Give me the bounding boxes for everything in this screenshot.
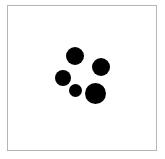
dot-left	[55, 70, 71, 86]
diagram-frame	[7, 5, 157, 151]
dot-small	[69, 84, 82, 97]
dot-large	[85, 83, 106, 104]
dot-right	[92, 58, 110, 76]
dot-top	[66, 47, 84, 65]
